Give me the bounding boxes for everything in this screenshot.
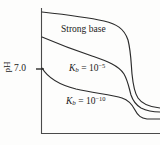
titration-curve-figure: pH 7.0 Strong base Kb = 10−5 Kb = 10−10 <box>0 0 160 145</box>
curve-label-kb-1e-10: Kb = 10−10 <box>66 95 106 107</box>
curve-label-strong-base: Strong base <box>61 24 106 34</box>
curve-label-kb-1e-5: Kb = 10−5 <box>69 62 105 74</box>
kb-exponent-very-weak: −10 <box>95 95 105 102</box>
kb-equals-very-weak: = 10 <box>76 96 96 106</box>
kb-equals-weak: = 10 <box>79 63 99 73</box>
kb-exponent-weak: −5 <box>98 62 105 69</box>
y-axis-title: pH <box>2 54 12 80</box>
y-tick-label-7: 7.0 <box>14 63 26 73</box>
